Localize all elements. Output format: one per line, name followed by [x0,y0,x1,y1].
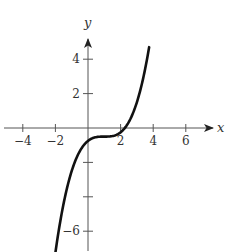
x-tick-label: 6 [182,134,190,148]
curve [55,47,149,252]
y-axis-label: y [83,15,92,30]
function-curve [55,47,149,252]
ticks: −4−2246−624 [14,52,190,238]
function-graph: −4−2246−624 x y [0,0,227,252]
y-tick-label: 2 [72,87,80,101]
y-tick-label: −6 [62,224,80,238]
x-tick-label: 2 [117,134,125,148]
x-tick-label: −2 [47,134,65,148]
x-axis-label: x [217,120,225,135]
x-tick-label: −4 [14,134,32,148]
x-tick-label: 4 [149,134,157,148]
y-tick-label: 4 [72,52,80,66]
